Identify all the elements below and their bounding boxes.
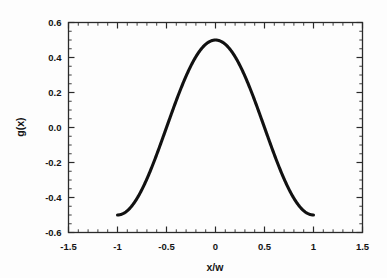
chart-canvas: -1.5-1-0.500.511.5 0.60.40.20.0-0.2-0.4-… xyxy=(0,0,387,278)
y-tick-label: -0.6 xyxy=(45,227,61,238)
x-tick-label: 0.5 xyxy=(258,241,272,252)
y-tick-label: -0.2 xyxy=(45,157,61,168)
data-series-g-of-x xyxy=(118,40,314,215)
y-axis-minor-ticks xyxy=(69,31,363,224)
chart-page: -1.5-1-0.500.511.5 0.60.40.20.0-0.2-0.4-… xyxy=(0,0,387,278)
x-axis-minor-ticks xyxy=(78,23,352,233)
y-tick-label: 0.4 xyxy=(48,52,62,63)
y-tick-label: -0.4 xyxy=(45,192,62,203)
plot-frame xyxy=(69,23,363,233)
y-axis-tick-labels: 0.60.40.20.0-0.2-0.4-0.6 xyxy=(45,17,62,238)
y-tick-label: 0.0 xyxy=(48,122,61,133)
x-tick-label: 1.5 xyxy=(356,241,370,252)
y-tick-label: 0.2 xyxy=(48,87,61,98)
x-tick-label: -0.5 xyxy=(158,241,175,252)
x-tick-label: -1.5 xyxy=(60,241,77,252)
y-tick-label: 0.6 xyxy=(48,17,61,28)
x-tick-label: 0 xyxy=(213,241,218,252)
x-tick-label: 1 xyxy=(311,241,317,252)
y-axis-major-ticks xyxy=(69,23,363,233)
x-axis-title: x/w xyxy=(207,261,225,273)
x-axis-major-ticks xyxy=(69,23,363,233)
x-tick-label: -1 xyxy=(113,241,122,252)
x-axis-tick-labels: -1.5-1-0.500.511.5 xyxy=(60,241,370,252)
y-axis-title: g(x) xyxy=(14,117,26,136)
